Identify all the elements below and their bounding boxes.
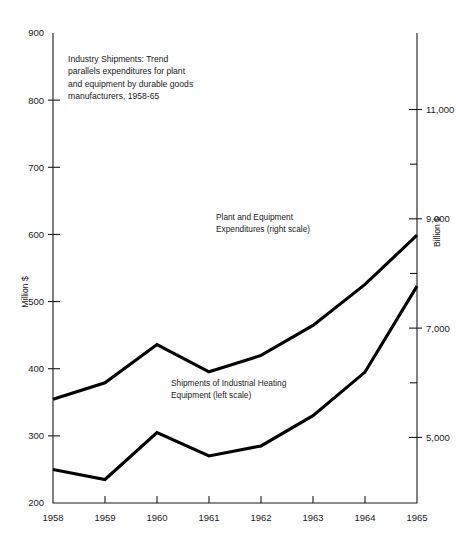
chart-note-line: and equipment by durable goods bbox=[68, 79, 193, 89]
left-tick-label: 800 bbox=[28, 95, 44, 106]
right-tick-label: 7,000 bbox=[426, 323, 450, 334]
x-tick-label: 1963 bbox=[302, 512, 323, 523]
left-tick-label: 700 bbox=[28, 162, 44, 173]
x-tick-label: 1962 bbox=[250, 512, 271, 523]
x-tick-label: 1965 bbox=[406, 512, 427, 523]
lower-series-label-line: Shipments of Industrial Heating bbox=[171, 378, 287, 388]
left-tick-label: 400 bbox=[28, 363, 44, 374]
lower-series-label-line: Equipment (left scale) bbox=[171, 390, 251, 400]
chart-note-line: parallels expenditures for plant bbox=[68, 66, 186, 76]
right-tick-label: 5,000 bbox=[426, 432, 450, 443]
left-tick-label: 900 bbox=[28, 27, 44, 38]
x-tick-label: 1959 bbox=[94, 512, 115, 523]
chart-svg: 200300400500600700800900 5,0007,0009,000… bbox=[0, 0, 456, 540]
left-tick-label: 500 bbox=[28, 296, 44, 307]
left-axis-title: Million $ bbox=[20, 276, 30, 308]
x-tick-label: 1960 bbox=[146, 512, 167, 523]
chart-figure: 200300400500600700800900 5,0007,0009,000… bbox=[0, 0, 456, 540]
left-tick-label: 300 bbox=[28, 430, 44, 441]
x-tick-label: 1958 bbox=[42, 512, 63, 523]
chart-note-line: Industry Shipments: Trend bbox=[68, 54, 169, 64]
upper-series-label-line: Expenditures (right scale) bbox=[216, 224, 310, 234]
right-tick-label: 11,000 bbox=[426, 104, 454, 115]
x-tick-label: 1964 bbox=[354, 512, 375, 523]
left-tick-label: 600 bbox=[28, 229, 44, 240]
left-tick-label: 200 bbox=[28, 497, 44, 508]
upper-series-label-line: Plant and Equipment bbox=[216, 212, 294, 222]
right-axis-title: Billion $ bbox=[432, 217, 442, 247]
x-tick-label: 1961 bbox=[198, 512, 219, 523]
chart-note-line: manufacturers, 1958-65 bbox=[68, 91, 159, 101]
